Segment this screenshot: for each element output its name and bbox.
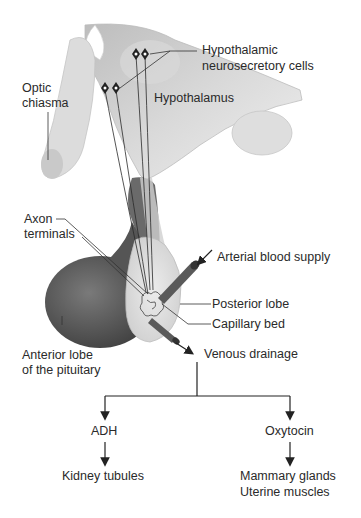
label-optic-chiasma-line2: chiasma <box>22 96 69 111</box>
label-target-uterine-muscles: Uterine muscles <box>240 485 330 500</box>
label-anterior-lobe-line2: of the pituitary <box>22 363 101 378</box>
label-anterior-lobe: Anterior lobe <box>22 348 93 363</box>
label-hormone-adh: ADH <box>91 424 117 439</box>
label-target-kidney-tubules: Kidney tubules <box>62 469 144 484</box>
label-optic-chiasma: Optic <box>22 81 51 96</box>
label-target-mammary-glands: Mammary glands <box>240 469 336 484</box>
venous-arrow <box>176 343 190 352</box>
label-venous-drainage: Venous drainage <box>204 347 298 362</box>
label-hormone-oxytocin: Oxytocin <box>265 424 314 439</box>
label-hypothalamus: Hypothalamus <box>154 91 234 106</box>
label-hypothalamic-cells: Hypothalamic <box>202 43 278 58</box>
label-axon-terminals: Axon <box>24 212 53 227</box>
arterial-arrow <box>200 250 212 262</box>
label-axon-terminals-line2: terminals <box>24 227 75 242</box>
label-arterial-blood-supply: Arterial blood supply <box>217 250 330 265</box>
label-posterior-lobe: Posterior lobe <box>212 297 289 312</box>
label-hypothalamic-cells-line2: neurosecretory cells <box>202 59 314 74</box>
label-capillary-bed: Capillary bed <box>212 317 285 332</box>
hormone-flow-tree <box>105 362 290 462</box>
mammillary-body <box>232 111 292 155</box>
